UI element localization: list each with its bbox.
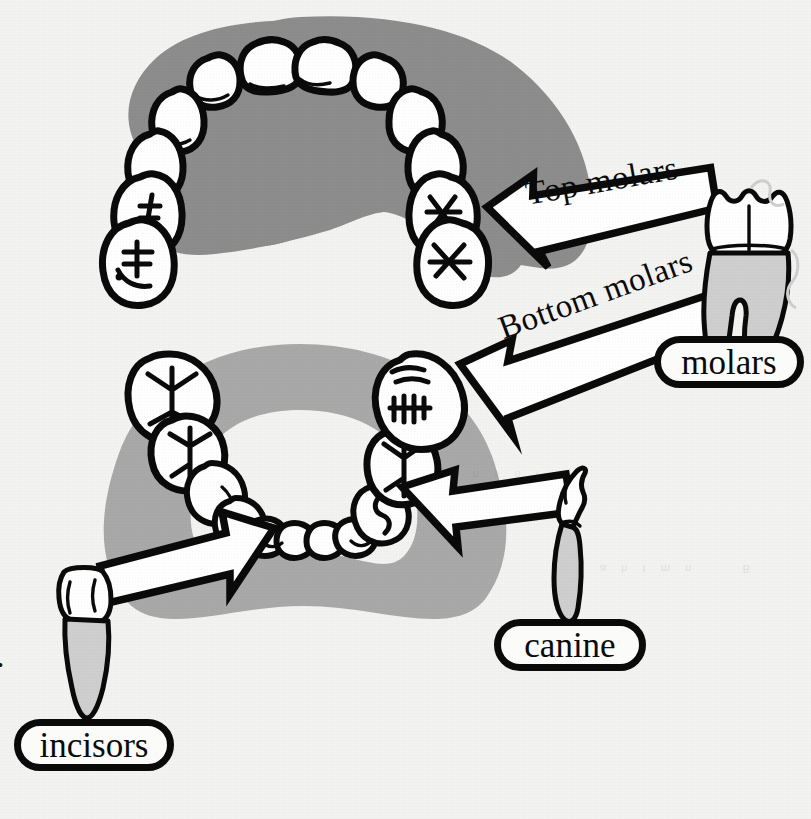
teeth-diagram-figure: .tooth { fill: #ffffff; stroke: #0a0a0a;… (0, 0, 811, 819)
specimen-incisor-tooth (59, 568, 111, 719)
label-incisors[interactable]: incisors (14, 719, 174, 771)
pit-upper-molar-left-2 (116, 274, 123, 281)
label-canine[interactable]: canine (494, 619, 646, 671)
teeth-diagram-canvas: .tooth { fill: #ffffff; stroke: #0a0a0a;… (0, 0, 811, 819)
label-molars[interactable]: molars (654, 336, 804, 388)
page-edge-artifact: . (0, 648, 12, 664)
